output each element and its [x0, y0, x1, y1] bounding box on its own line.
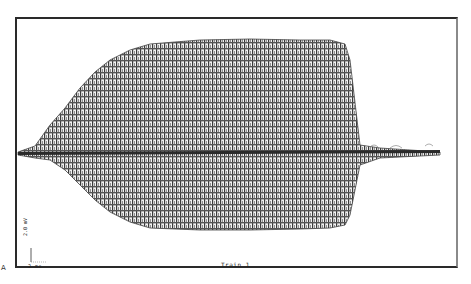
- panel-label: A: [1, 264, 6, 272]
- caption: Train 1: [221, 261, 250, 268]
- scale-bar-x-label: 2 ms: [28, 263, 42, 269]
- scale-bar-y-label: 2.0 mV: [22, 218, 28, 236]
- waveform-overlay: [0, 0, 471, 284]
- figure: 2.0 mV 2 ms Train 1 A: [0, 0, 471, 284]
